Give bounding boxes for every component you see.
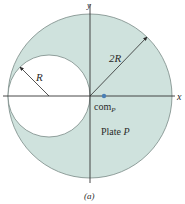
plate-diagram: y x 2R R comP Plate P (a) xyxy=(0,0,185,204)
radius-r-label: R xyxy=(35,71,43,83)
x-axis-label: x xyxy=(176,91,182,102)
figure-caption: (a) xyxy=(84,191,95,201)
radius-2r-label: 2R xyxy=(109,52,122,64)
com-marker xyxy=(102,94,106,98)
y-axis-label: y xyxy=(86,0,91,10)
plate-label: Plate P xyxy=(101,126,130,137)
